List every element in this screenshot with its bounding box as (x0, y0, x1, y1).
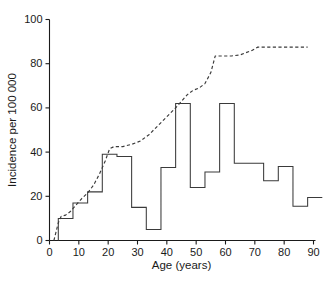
x-tick-label: 40 (161, 246, 173, 258)
y-tick-label: 80 (30, 57, 42, 69)
y-axis-ticks: 020406080100 (24, 13, 49, 246)
chart-figure: 020406080100 0102030405060708090 Age (ye… (0, 0, 332, 285)
y-axis-title: Incidence per 100 000 (6, 73, 18, 187)
x-axis-ticks: 0102030405060708090 (46, 241, 319, 258)
x-tick-label: 60 (219, 246, 231, 258)
y-tick-label: 20 (30, 190, 42, 202)
x-tick-label: 10 (73, 246, 85, 258)
x-tick-label: 80 (278, 246, 290, 258)
x-axis-title: Age (years) (152, 259, 212, 271)
x-tick-label: 20 (102, 246, 114, 258)
x-tick-label: 30 (131, 246, 143, 258)
x-tick-label: 90 (307, 246, 319, 258)
x-tick-label: 50 (190, 246, 202, 258)
cumulative-incidence-dashed-line (54, 47, 308, 240)
y-tick-label: 40 (30, 146, 42, 158)
age-specific-incidence-step-line (58, 103, 322, 240)
x-tick-label: 0 (46, 246, 52, 258)
y-tick-label: 0 (36, 234, 42, 246)
y-tick-label: 60 (30, 101, 42, 113)
incidence-line-chart: 020406080100 0102030405060708090 Age (ye… (0, 0, 332, 285)
y-tick-label: 100 (24, 13, 42, 25)
x-tick-label: 70 (249, 246, 261, 258)
